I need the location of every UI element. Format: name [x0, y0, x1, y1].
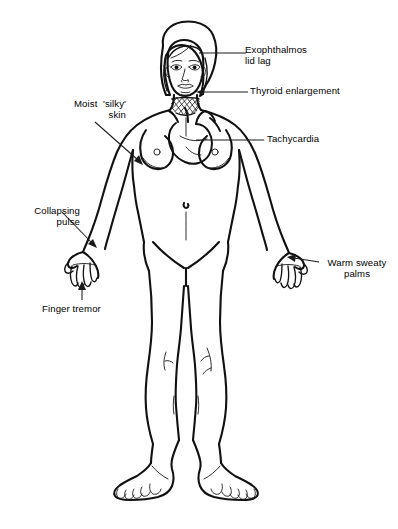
- hand-left-outline: [68, 252, 83, 268]
- label-thyroid-enlargement: Thyroid enlargement: [250, 85, 340, 96]
- eyebrow-left: [172, 60, 182, 62]
- instep-left: [152, 466, 168, 479]
- arm-right-inner: [239, 150, 267, 250]
- label-finger-tremor: Finger tremor: [42, 303, 101, 314]
- left-arm-hand-group: [65, 240, 99, 288]
- label-exophthalmos: Exophthalmoslid lag: [245, 44, 307, 67]
- hair-outline: [161, 22, 216, 96]
- label-tachycardia: Tachycardia: [267, 133, 319, 144]
- ankle-left: [151, 444, 153, 463]
- label-exophthalmos-line1: Exophthalmos: [245, 44, 307, 55]
- eye-left-pupil: [175, 65, 179, 69]
- foot-left-outline: [114, 440, 179, 500]
- label-warm-sweaty-palms: Warm sweatypalms: [321, 257, 393, 280]
- breast-right: [199, 130, 232, 169]
- toe-left-big: [150, 484, 161, 494]
- leg-right-outer: [219, 271, 226, 444]
- eyebrow-right: [189, 60, 199, 62]
- ankle-right: [219, 444, 221, 463]
- heart-outline: [169, 123, 212, 164]
- toe-right-big: [211, 484, 222, 494]
- right-arm-hand-group: [274, 241, 308, 289]
- leg-right-inner: [188, 286, 196, 440]
- toes-right-4: [222, 487, 231, 496]
- clinical-signs-diagram: Exophthalmoslid lag Thyroid enlargement …: [0, 0, 398, 529]
- hip-left: [144, 242, 149, 271]
- label-tachycardia-text: Tachycardia: [267, 133, 319, 144]
- arm-left-inner: [105, 150, 133, 249]
- nipple-left: [154, 149, 160, 155]
- hip-right: [223, 242, 228, 271]
- toes-left-4: [141, 487, 150, 496]
- head-group: [161, 22, 216, 96]
- leader-warm-palms-arrowhead: [287, 254, 296, 262]
- wrist-left: [83, 240, 88, 252]
- leader-warm-palms: [294, 258, 319, 262]
- label-collapsing-pulse: Collapsingpulse: [12, 205, 80, 228]
- leg-left-inner: [176, 286, 184, 440]
- aortic-arch: [196, 111, 205, 124]
- foot-right-outline: [193, 440, 258, 500]
- label-warm-palms-line2: palms: [344, 268, 370, 279]
- nose: [182, 69, 188, 81]
- heart-overlay: [169, 108, 220, 164]
- nostril-right: [188, 80, 189, 82]
- shoulder-right-outer: [201, 110, 284, 241]
- mouth-upper: [178, 84, 193, 86]
- calf-left-hint: [173, 396, 174, 414]
- leg-left-outer: [146, 271, 153, 444]
- label-exophthalmos-line2: lid lag: [245, 55, 271, 66]
- label-thyroid-text: Thyroid enlargement: [250, 85, 340, 96]
- hand-right-outline: [289, 253, 304, 269]
- navel: [184, 203, 189, 208]
- torso-right-side: [228, 150, 240, 242]
- label-warm-palms-line1: Warm sweaty: [328, 257, 387, 268]
- calf-right-hint: [198, 396, 199, 414]
- eye-right-pupil: [193, 65, 197, 69]
- knee-left-line-2: [165, 361, 173, 363]
- inguinal-crease-left: [153, 242, 184, 268]
- feet-group: [114, 440, 258, 500]
- nostril-left: [181, 80, 182, 82]
- instep-right: [204, 466, 220, 479]
- knee-right-line: [207, 348, 211, 371]
- legs-group: [146, 271, 227, 444]
- label-collapsing-line1: Collapsing: [34, 205, 80, 216]
- knee-right-line-2: [201, 356, 209, 361]
- nipple-right: [212, 149, 218, 155]
- chin-crease: [181, 92, 190, 93]
- label-finger-tremor-text: Finger tremor: [42, 303, 101, 314]
- inguinal-crease-right: [188, 242, 219, 268]
- label-moist-silky-skin: Moist 'silky'skin: [22, 98, 126, 121]
- torso-group: [88, 110, 284, 286]
- label-moist-skin-line1: Moist 'silky': [74, 98, 126, 109]
- knee-right-line-3: [203, 368, 211, 374]
- breast-right-crease: [205, 158, 229, 168]
- vessel-branch-right: [205, 111, 215, 121]
- label-moist-skin-line2: skin: [109, 109, 126, 120]
- mouth-lower: [178, 86, 193, 88]
- breast-left-crease: [143, 158, 167, 168]
- shoulder-left-outer: [88, 110, 170, 240]
- wrist-right: [284, 241, 289, 253]
- label-collapsing-line2: pulse: [57, 216, 80, 227]
